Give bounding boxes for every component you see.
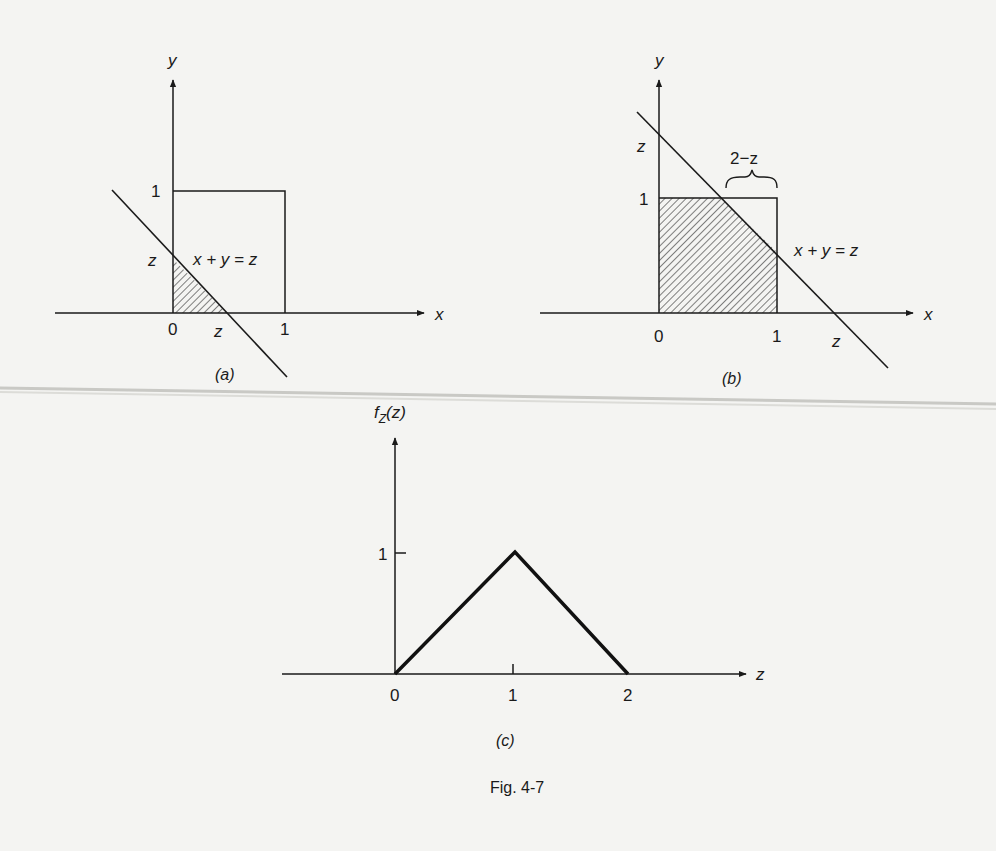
pdf-curve [395,552,628,674]
tick-y1-b: 1 [639,190,648,209]
caption-b: (b) [722,370,742,387]
line-label-b: x + y = z [793,241,859,260]
z-axis-label-c: z [755,665,765,684]
tick-xz-a: z [213,322,223,341]
x-axis-label-a: x [434,305,444,324]
line-label-a: x + y = z [192,250,258,269]
tick-x0-a: 0 [168,320,177,339]
figure-canvas: y x 1 z 0 z 1 x + y = z (a) y x z 1 0 1 … [0,0,996,851]
brace-label-b: 2−z [730,149,758,168]
page-fold-line [0,388,996,409]
x-axis-label-b: x [923,305,933,324]
caption-c: (c) [496,732,515,749]
line-x-plus-y-eq-z-a [112,190,287,377]
tick-xz-b: z [831,332,841,351]
tick-yz-a: z [147,251,157,270]
tick-yz-b: z [636,137,646,156]
y-axis-label-b: y [654,51,665,70]
tick-x0-b: 0 [654,327,663,346]
brace-2-minus-z [726,170,777,188]
panel-b: y x z 1 0 1 z 2−z x + y = z (b) [540,51,933,387]
tick-x0-c: 0 [390,686,399,705]
caption-a: (a) [215,366,235,383]
figure-caption: Fig. 4-7 [490,779,544,796]
tick-x1-a: 1 [280,320,289,339]
tick-y1-c: 1 [378,545,387,564]
shaded-region-b [659,198,777,313]
panel-a: y x 1 z 0 z 1 x + y = z (a) [55,51,444,383]
tick-x2-c: 2 [623,686,632,705]
y-axis-label-a: y [167,51,178,70]
f-axis-label-c: fZ(z) [374,403,406,426]
panel-c: fZ(z) 1 z 0 1 2 (c) [282,403,765,749]
tick-x1-c: 1 [508,686,517,705]
tick-y1-a: 1 [151,182,160,201]
tick-x1-b: 1 [772,327,781,346]
